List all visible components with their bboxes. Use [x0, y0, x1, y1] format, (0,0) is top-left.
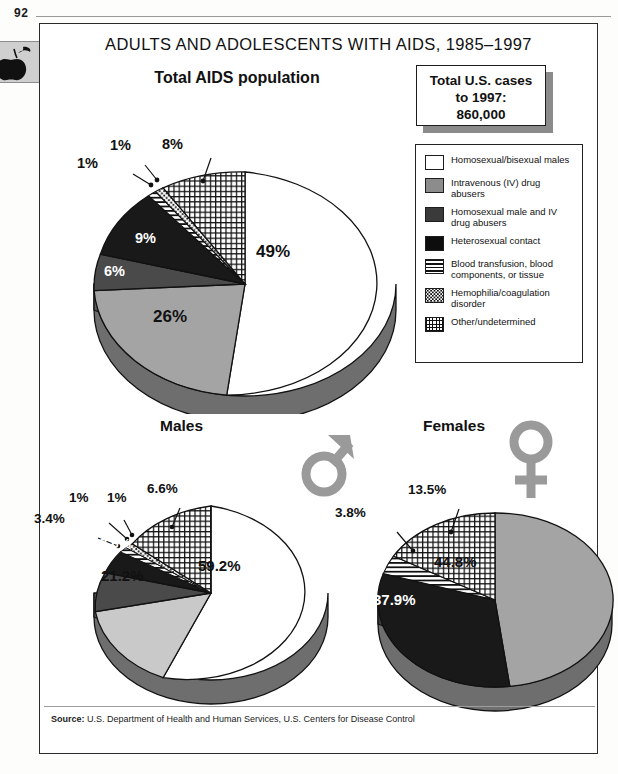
- pct-total-9: 9%: [135, 230, 156, 246]
- legend-swatch-heterosexual-contact: [425, 236, 444, 251]
- total-cases-line1: Total U.S. cases: [417, 73, 545, 88]
- pct-total-26: 26%: [153, 307, 187, 327]
- legend-label: Homosexual/bisexual males: [451, 154, 569, 165]
- pct-males-1-hemophilia: 1%: [107, 490, 127, 505]
- total-population-subtitle: Total AIDS population: [112, 69, 362, 87]
- legend-item: Hemophilia/coagulation disorder: [425, 287, 574, 309]
- pct-males-1-blood: 1%: [69, 490, 89, 505]
- total-cases-line2: to 1997:: [417, 90, 545, 105]
- source-note: Source: U.S. Department of Health and Hu…: [51, 714, 415, 724]
- legend-label: Hemophilia/coagulation disorder: [451, 287, 574, 309]
- females-chart-caption: Females: [423, 417, 485, 435]
- pct-males-3-4: 3.4%: [34, 511, 65, 526]
- pct-females-37-9: 37.9%: [373, 591, 416, 608]
- legend-swatch-blood-transfusion: [425, 259, 444, 274]
- pct-males-21-2: 21.2%: [101, 567, 144, 584]
- legend-swatch-homosexual-bisexual-males: [425, 155, 444, 170]
- top-rule: [36, 16, 611, 17]
- legend-item: Homosexual/bisexual males: [425, 154, 574, 170]
- pct-males-59-2: 59.2%: [198, 557, 241, 574]
- pct-total-1-hemophilia: 1%: [110, 137, 131, 153]
- pct-males-7-6: 7.6%: [100, 536, 131, 551]
- pct-total-8: 8%: [162, 136, 183, 152]
- legend: Homosexual/bisexual males Intravenous (I…: [415, 144, 583, 363]
- figure-frame: ADULTS AND ADOLESCENTS WITH AIDS, 1985–1…: [39, 23, 598, 754]
- legend-label: Homosexual male and IV drug abusers: [451, 206, 574, 228]
- legend-item: Intravenous (IV) drug abusers: [425, 177, 574, 199]
- legend-item: Homosexual male and IV drug abusers: [425, 206, 574, 228]
- figure-title: ADULTS AND ADOLESCENTS WITH AIDS, 1985–1…: [40, 35, 597, 54]
- total-aids-population-pie-chart: [85, 144, 415, 414]
- males-pie-chart: [80, 479, 350, 729]
- legend-item: Heterosexual contact: [425, 235, 574, 251]
- source-text: U.S. Department of Health and Human Serv…: [87, 714, 415, 724]
- legend-label: Other/undetermined: [451, 316, 536, 327]
- legend-swatch-homosexual-male-and-iv: [425, 207, 444, 222]
- source-divider: [44, 706, 595, 707]
- source-label: Source:: [51, 714, 85, 724]
- legend-swatch-other-undetermined: [425, 317, 444, 332]
- legend-swatch-hemophilia: [425, 288, 444, 303]
- legend-item: Other/undetermined: [425, 316, 574, 332]
- legend-item: Blood transfusion, blood components, or …: [425, 258, 574, 280]
- pct-total-6: 6%: [104, 263, 125, 279]
- legend-label: Blood transfusion, blood components, or …: [451, 258, 574, 280]
- total-cases-box: Total U.S. cases to 1997: 860,000: [416, 65, 546, 126]
- apple-logo-box: [0, 41, 40, 83]
- pct-total-1-blood: 1%: [77, 155, 98, 171]
- pct-males-6-6: 6.6%: [147, 481, 178, 496]
- page-number: 92: [14, 6, 28, 20]
- males-chart-caption: Males: [160, 417, 203, 435]
- total-cases-line3: 860,000: [417, 107, 545, 122]
- pct-females-13-5: 13.5%: [408, 482, 446, 497]
- pct-females-44-8: 44.8%: [434, 553, 477, 570]
- pct-females-3-8: 3.8%: [335, 505, 366, 520]
- legend-label: Intravenous (IV) drug abusers: [451, 177, 574, 199]
- legend-label: Heterosexual contact: [451, 235, 540, 246]
- legend-swatch-iv-drug-abusers: [425, 178, 444, 193]
- pct-total-49: 49%: [256, 242, 290, 262]
